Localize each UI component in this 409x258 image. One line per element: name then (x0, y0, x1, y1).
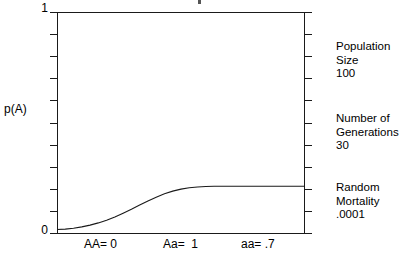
y-axis-tick-right (305, 189, 312, 190)
y-axis-min-label: 0 (34, 224, 48, 236)
y-axis-tick-left (50, 189, 57, 190)
x-tick-label-AA: AA= 0 (84, 238, 117, 251)
y-axis-tick-left (50, 123, 57, 124)
y-axis-tick-right (305, 167, 312, 168)
y-axis-tick-right (305, 145, 312, 146)
y-axis-tick-left (50, 12, 57, 13)
curve-plot (57, 12, 305, 234)
y-axis-tick-right (305, 233, 312, 234)
param-population-size-line1: Population (336, 40, 390, 54)
param-random-mortality-value: .0001 (336, 208, 379, 222)
figure-canvas: 1 0 p(A) AA= 0 Aa= 1 aa= .7 Population S… (0, 0, 409, 258)
y-axis-tick-left (50, 211, 57, 212)
y-axis-max-label: 1 (34, 2, 48, 14)
param-population-size-value: 100 (336, 67, 390, 81)
param-generations-line2: Generations (336, 126, 399, 140)
param-generations: Number of Generations 30 (336, 112, 399, 153)
cropped-title-fragment (198, 0, 201, 4)
param-random-mortality-line1: Random (336, 181, 379, 195)
y-axis-tick-right (305, 34, 312, 35)
y-axis-tick-right (305, 78, 312, 79)
y-axis-tick-left (50, 34, 57, 35)
y-axis-tick-left (50, 145, 57, 146)
x-tick-label-Aa: Aa= 1 (163, 238, 198, 251)
param-generations-value: 30 (336, 139, 399, 153)
y-axis-tick-left (50, 56, 57, 57)
param-population-size-line2: Size (336, 54, 390, 68)
y-axis-tick-right (305, 211, 312, 212)
param-random-mortality-line2: Mortality (336, 195, 379, 209)
y-axis-tick-right (305, 123, 312, 124)
y-axis-tick-left (50, 233, 57, 234)
y-axis-tick-left (50, 100, 57, 101)
y-axis-tick-left (50, 167, 57, 168)
param-random-mortality: Random Mortality .0001 (336, 181, 379, 222)
y-axis-title: p(A) (4, 103, 27, 116)
param-generations-line1: Number of (336, 112, 399, 126)
y-axis-tick-left (50, 78, 57, 79)
x-tick-label-aa: aa= .7 (241, 238, 275, 251)
y-axis-tick-right (305, 12, 312, 13)
p-of-A-curve (57, 186, 305, 229)
param-population-size: Population Size 100 (336, 40, 390, 81)
y-axis-tick-right (305, 56, 312, 57)
y-axis-tick-right (305, 100, 312, 101)
